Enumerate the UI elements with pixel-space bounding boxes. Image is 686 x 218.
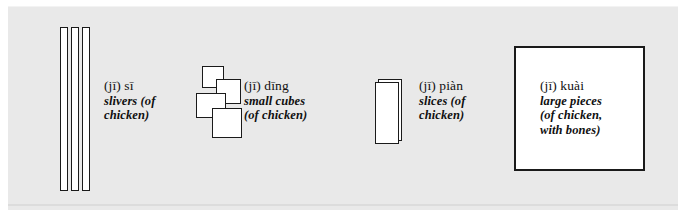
gloss-line: chicken) [104,108,155,123]
gloss-line: slivers (of [104,94,155,109]
label-slivers: (jī) sī slivers (of chicken) [104,78,155,123]
gloss-line: slices (of [419,94,465,109]
gloss-line: with bones) [540,123,602,138]
gloss-line: (of chicken, [540,108,602,123]
cube-square [212,108,242,138]
term-large-pieces: (jī) kuài [540,78,602,94]
panel-top-edge [8,6,678,7]
gloss-line: chicken) [419,108,465,123]
panel-bottom-edge [8,204,678,206]
cutting-terms-figure: (jī) sī slivers (of chicken) (jī) dīng s… [0,0,686,218]
term-small-cubes: (jī) dīng [244,78,307,94]
sliver-strip [60,27,68,191]
label-large-pieces: (jī) kuài large pieces (of chicken, with… [540,78,602,138]
sliver-strip [71,27,79,191]
gloss-line: small cubes [244,94,307,109]
term-slices: (jī) piàn [419,78,465,94]
gloss-line: (of chicken) [244,108,307,123]
label-slices: (jī) piàn slices (of chicken) [419,78,465,123]
term-slivers: (jī) sī [104,78,155,94]
slice-front-face [375,82,399,144]
gloss-small-cubes: small cubes (of chicken) [244,94,307,123]
label-small-cubes: (jī) dīng small cubes (of chicken) [244,78,307,123]
gloss-slices: slices (of chicken) [419,94,465,123]
gloss-slivers: slivers (of chicken) [104,94,155,123]
gloss-large-pieces: large pieces (of chicken, with bones) [540,94,602,138]
gloss-line: large pieces [540,94,602,109]
sliver-strip [82,27,90,191]
